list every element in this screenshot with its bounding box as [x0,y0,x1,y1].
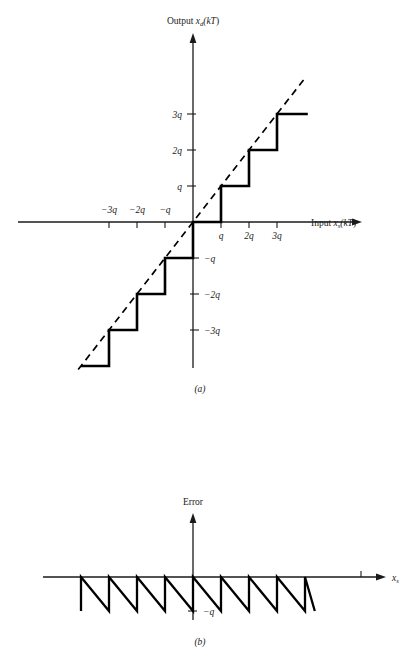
panel-b-caption: (b) [194,637,205,648]
panel-b-y-axis-arrow-icon [190,513,197,523]
panel-a-x-axis-label: Input xs(kT) [311,218,356,229]
panel-b-group: Error xs −q (b) [43,497,399,648]
panel-a-yticklabel--q: −q [204,254,215,264]
panel-a-yticklabel-q: q [177,182,182,192]
panel-a-xticklabel--3q: −3q [101,205,117,215]
panel-a-yticklabel--3q: −3q [204,326,220,336]
panel-a-xticklabel--2q: −2q [129,205,145,215]
panel-a-yticklabel--2q: −2q [204,290,220,300]
panel-a-yticklabel-2q: 2q [173,146,183,156]
panel-b-sawtooth [81,577,315,611]
panel-a-xticklabel--q: −q [159,205,170,215]
panel-a-xticklabel-q: q [219,231,224,241]
panel-a-xticklabel-3q: 3q [271,231,282,241]
panel-a-xticklabel-2q: 2q [244,231,254,241]
panel-a-group: Output xd(kT) Input xs(kT) −3q −2q −q q … [18,16,362,395]
panel-b-y-axis-label: Error [183,497,204,507]
panel-b-yticklabel--q: −q [203,607,214,617]
panel-a-yticklabel-3q: 3q [172,110,183,120]
panel-a-caption: (a) [194,384,205,395]
panel-a-ideal-line [78,78,305,370]
panel-a-y-axis-arrow-icon [190,33,197,43]
panel-a-y-axis-label: Output xd(kT) [167,16,219,27]
quantization-figure-svg: Output xd(kT) Input xs(kT) −3q −2q −q q … [0,0,409,663]
figure-root: Output xd(kT) Input xs(kT) −3q −2q −q q … [0,0,409,663]
panel-b-x-axis-arrow-icon [376,574,386,581]
panel-b-x-axis-label: xs [391,573,399,584]
